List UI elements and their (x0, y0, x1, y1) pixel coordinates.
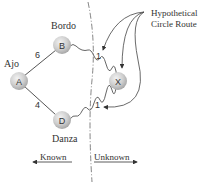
edge-b-x-weight: 1 (96, 51, 101, 61)
unknown-label: Unknown (94, 152, 130, 162)
known-unknown-boundary (88, 2, 93, 182)
node-d-label: D (59, 116, 66, 126)
node-d: D (53, 111, 71, 129)
node-x: X (109, 72, 127, 90)
circle-route-diagram: A B D X Ajo Bordo Danza 6 4 1 1 Hypothet… (0, 0, 207, 183)
node-b-label: B (59, 41, 65, 51)
node-b-name: Bordo (51, 20, 76, 31)
annotation-arrow-3 (104, 12, 144, 107)
node-a-label: A (16, 77, 22, 87)
edge-a-d-weight: 4 (35, 100, 40, 110)
node-b: B (53, 36, 71, 54)
node-a: A (10, 72, 28, 90)
annotation-line-1: Hypothetical (151, 8, 198, 18)
edge-d-x-weight: 1 (95, 100, 100, 110)
edge-a-b-weight: 6 (35, 50, 40, 60)
known-label: Known (40, 152, 67, 162)
node-a-name: Ajo (4, 58, 19, 69)
annotation-arrow-2 (122, 12, 144, 68)
edge-d-x (70, 80, 117, 119)
node-d-name: Danza (52, 133, 78, 144)
annotation-line-2: Circle Route (151, 19, 197, 29)
node-x-label: X (115, 77, 121, 87)
